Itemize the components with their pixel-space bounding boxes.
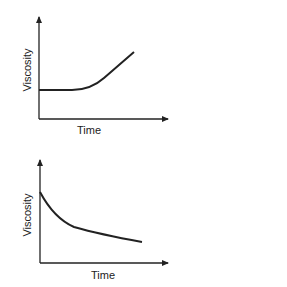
viscosity-charts: Time Viscosity Time Viscosity [0,0,287,287]
viscosity-curve [39,52,134,90]
viscosity-curve [40,192,142,242]
x-axis-label: Time [91,269,115,281]
y-axis-label: Viscosity [21,193,33,237]
y-axis-label: Viscosity [21,48,33,92]
chart-1: Time Viscosity [21,17,168,136]
x-axis-label: Time [77,124,101,136]
chart-2: Time Viscosity [21,160,168,281]
